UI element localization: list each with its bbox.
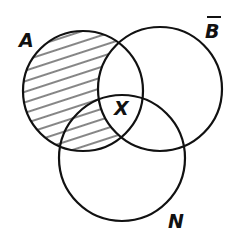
label-b-complement: B: [205, 17, 221, 42]
label-a: A: [17, 29, 34, 51]
label-x: X: [113, 97, 130, 119]
label-b: B: [205, 20, 219, 42]
venn-diagram: A B X N: [0, 0, 240, 242]
label-n: N: [168, 210, 184, 232]
shaded-region-a-minus-b: [0, 0, 240, 242]
